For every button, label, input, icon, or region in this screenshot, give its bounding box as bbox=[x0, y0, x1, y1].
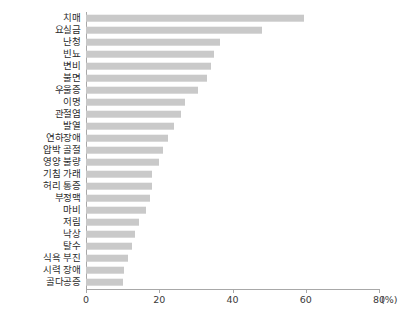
bar-row: 낙상 bbox=[86, 228, 379, 240]
bar-row: 영양 불량 bbox=[86, 156, 379, 168]
bar-row: 저림 bbox=[86, 216, 379, 228]
bar bbox=[86, 267, 124, 274]
category-label: 이명 bbox=[63, 97, 81, 107]
bar bbox=[86, 171, 152, 178]
plot-area: 치매요실금난청빈뇨변비불면우울증이명관절염발열연하장애압박 골절영양 불량기침 … bbox=[86, 12, 379, 288]
bar-row: 골다공증 bbox=[86, 276, 379, 288]
category-label: 골다공증 bbox=[46, 277, 81, 287]
x-axis-tick bbox=[379, 289, 380, 293]
bar-row: 변비 bbox=[86, 60, 379, 72]
bar bbox=[86, 111, 181, 118]
bar bbox=[86, 87, 198, 94]
bar-row: 요실금 bbox=[86, 24, 379, 36]
bar bbox=[86, 75, 207, 82]
bar-row: 우울증 bbox=[86, 84, 379, 96]
bar bbox=[86, 39, 220, 46]
bar bbox=[86, 15, 304, 22]
category-label: 난청 bbox=[63, 37, 81, 47]
x-axis-tick-label: 40 bbox=[226, 294, 238, 305]
category-label: 저림 bbox=[63, 217, 81, 227]
category-label: 우울증 bbox=[55, 85, 81, 95]
category-label: 요실금 bbox=[55, 25, 81, 35]
bar bbox=[86, 63, 211, 70]
bar bbox=[86, 51, 214, 58]
bar-row: 탈수 bbox=[86, 240, 379, 252]
bar-row: 관절염 bbox=[86, 108, 379, 120]
bar bbox=[86, 135, 168, 142]
bar-row: 식욕 부진 bbox=[86, 252, 379, 264]
bar bbox=[86, 147, 163, 154]
bar-row: 난청 bbox=[86, 36, 379, 48]
bar-row: 불면 bbox=[86, 72, 379, 84]
bar-row: 연하장애 bbox=[86, 132, 379, 144]
category-label: 치매 bbox=[63, 13, 81, 23]
x-axis-tick-label: 0 bbox=[83, 294, 89, 305]
bar bbox=[86, 195, 150, 202]
bar bbox=[86, 159, 159, 166]
category-label: 변비 bbox=[63, 61, 81, 71]
bar bbox=[86, 255, 128, 262]
bar-row: 이명 bbox=[86, 96, 379, 108]
category-label: 부정맥 bbox=[55, 193, 81, 203]
bar-row: 부정맥 bbox=[86, 192, 379, 204]
bar bbox=[86, 99, 185, 106]
category-label: 발열 bbox=[63, 121, 81, 131]
category-label: 빈뇨 bbox=[63, 49, 81, 59]
bar bbox=[86, 243, 132, 250]
bar bbox=[86, 207, 146, 214]
category-label: 압박 골절 bbox=[43, 145, 81, 155]
x-axis-tick bbox=[233, 289, 234, 293]
bar bbox=[86, 183, 152, 190]
bar bbox=[86, 231, 135, 238]
category-label: 낙상 bbox=[63, 229, 81, 239]
x-axis-tick bbox=[86, 289, 87, 293]
x-axis-tick-label: 60 bbox=[300, 294, 312, 305]
category-label: 식욕 부진 bbox=[43, 253, 81, 263]
bar-row: 시력 장애 bbox=[86, 264, 379, 276]
bar-row: 빈뇨 bbox=[86, 48, 379, 60]
bar-row: 압박 골절 bbox=[86, 144, 379, 156]
category-label: 영양 불량 bbox=[43, 157, 81, 167]
category-label: 탈수 bbox=[63, 241, 81, 251]
bar-row: 발열 bbox=[86, 120, 379, 132]
bar bbox=[86, 27, 262, 34]
category-label: 시력 장애 bbox=[43, 265, 81, 275]
bar-row: 마비 bbox=[86, 204, 379, 216]
bar-row: 치매 bbox=[86, 12, 379, 24]
bar-chart: 치매요실금난청빈뇨변비불면우울증이명관절염발열연하장애압박 골절영양 불량기침 … bbox=[0, 0, 406, 324]
category-label: 불면 bbox=[63, 73, 81, 83]
bar bbox=[86, 219, 139, 226]
x-axis-tick bbox=[306, 289, 307, 293]
x-axis-tick bbox=[159, 289, 160, 293]
x-axis-tick-label: 20 bbox=[153, 294, 165, 305]
category-label: 기침 가래 bbox=[43, 169, 81, 179]
x-axis-tick-label: 80 bbox=[373, 294, 385, 305]
bar-row: 기침 가래 bbox=[86, 168, 379, 180]
bar bbox=[86, 279, 123, 286]
bar bbox=[86, 123, 174, 130]
category-label: 허리 통증 bbox=[43, 181, 81, 191]
category-label: 마비 bbox=[63, 205, 81, 215]
category-label: 연하장애 bbox=[46, 133, 81, 143]
bar-row: 허리 통증 bbox=[86, 180, 379, 192]
category-label: 관절염 bbox=[55, 109, 81, 119]
